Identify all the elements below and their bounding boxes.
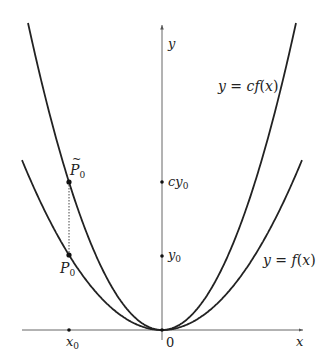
point-p0 (66, 252, 71, 257)
curve-cf-label: y = cf(x) (217, 78, 278, 94)
p0-tilde-accent: ~ (72, 153, 81, 166)
tick-y0 (160, 254, 164, 258)
x0-label: x0 (66, 334, 79, 351)
point-p0-tilde (66, 179, 71, 184)
origin-label: 0 (166, 335, 174, 350)
parabola-scaling-diagram: y x 0 x0 y0 cy0 P0 P0 ~ y = cf(x) y = f(… (0, 0, 327, 364)
x-axis-label: x (296, 334, 304, 349)
cy0-label: cy0 (168, 174, 189, 191)
curve-f-label: y = f(x) (262, 252, 316, 268)
tick-origin (160, 328, 164, 332)
y0-label: y0 (167, 247, 181, 264)
y-axis-label: y (167, 36, 176, 51)
tick-cy0 (160, 180, 164, 184)
tick-x0 (67, 328, 71, 332)
